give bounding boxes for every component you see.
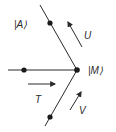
state-a-label: |A⟩ <box>14 19 27 30</box>
u-label: U <box>84 30 92 41</box>
left-dot <box>21 67 26 72</box>
upper-branch-line <box>40 5 77 70</box>
state-diagram: |A⟩ |M⟩ U T V <box>0 0 116 132</box>
diagram-canvas: |A⟩ |M⟩ U T V <box>0 0 116 132</box>
v-label: V <box>79 105 87 116</box>
u-arrow <box>68 22 82 47</box>
lower-dot <box>47 114 52 119</box>
state-m-label: |M⟩ <box>88 65 103 76</box>
state-a-dot <box>47 20 52 25</box>
vertex-m-dot <box>74 67 80 73</box>
t-label: T <box>35 94 42 105</box>
